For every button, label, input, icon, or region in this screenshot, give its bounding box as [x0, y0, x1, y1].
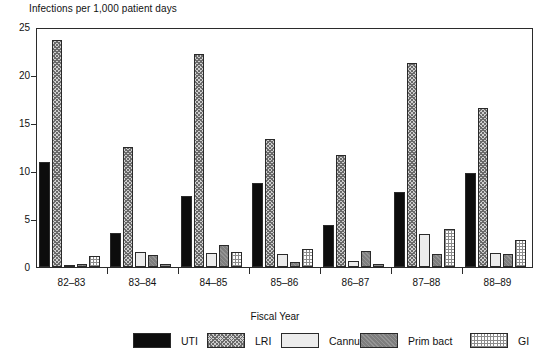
bar-gi-83-84: [160, 264, 171, 267]
legend-swatch-prim-bact-icon: [360, 333, 398, 348]
bar-prim-bact-82-83: [77, 264, 88, 267]
bar-uti-84-85: [181, 196, 192, 267]
bar-group: [37, 29, 108, 267]
legend-label: LRI: [255, 335, 271, 347]
x-tick-label: 83–84: [107, 277, 178, 288]
x-tick-mark: [391, 268, 392, 274]
y-tick-label: 15: [0, 119, 30, 129]
legend-label: GI: [518, 335, 529, 347]
bar-cannula-87-88: [419, 234, 430, 267]
x-tick-mark: [178, 268, 179, 274]
bar-group: [250, 29, 321, 267]
legend-swatch-lri-icon: [207, 333, 245, 348]
bar-prim-bact-88-89: [503, 254, 514, 267]
bar-lri-88-89: [478, 108, 489, 267]
bar-uti-86-87: [323, 225, 334, 267]
bar-uti-85-86: [252, 183, 263, 267]
bar-lri-82-83: [52, 40, 63, 267]
bar-gi-82-83: [89, 256, 100, 267]
bar-group: [179, 29, 250, 267]
legend-swatch-gi-icon: [470, 333, 508, 348]
legend-label: Prim bact: [408, 335, 452, 347]
bar-group: [108, 29, 179, 267]
bar-cannula-82-83: [64, 265, 75, 267]
x-tick-mark: [107, 268, 108, 274]
chart-title: Infections per 1,000 patient days: [29, 3, 177, 14]
bar-cannula-86-87: [348, 261, 359, 267]
bar-gi-85-86: [302, 249, 313, 267]
x-axis-title: Fiscal Year: [0, 311, 550, 322]
x-tick-mark: [462, 268, 463, 274]
bar-chart: Infections per 1,000 patient days 051015…: [0, 0, 550, 360]
bar-group: [321, 29, 392, 267]
bar-uti-82-83: [39, 162, 50, 267]
bar-prim-bact-85-86: [290, 262, 301, 267]
bar-gi-88-89: [515, 240, 526, 267]
bar-uti-87-88: [394, 192, 405, 267]
bar-gi-84-85: [231, 252, 242, 267]
x-tick-mark: [320, 268, 321, 274]
y-tick-label: 25: [0, 23, 30, 33]
bar-lri-85-86: [265, 139, 276, 267]
plot-area: [36, 28, 533, 268]
bar-cannula-85-86: [277, 254, 288, 267]
x-tick-label: 86–87: [320, 277, 391, 288]
bar-uti-83-84: [110, 233, 121, 267]
bar-lri-87-88: [407, 63, 418, 267]
chart-legend: UTILRICannulaPrim bactGI: [0, 333, 550, 357]
y-axis: 0510152025: [0, 0, 36, 360]
bar-prim-bact-87-88: [432, 254, 443, 267]
y-tick-label: 5: [0, 215, 30, 225]
x-tick-label: 88–89: [462, 277, 533, 288]
x-tick-label: 82–83: [36, 277, 107, 288]
x-tick-mark: [249, 268, 250, 274]
bar-prim-bact-86-87: [361, 251, 372, 267]
bar-cannula-83-84: [135, 252, 146, 267]
bar-lri-83-84: [123, 147, 134, 267]
bar-lri-86-87: [336, 155, 347, 267]
bar-group: [463, 29, 534, 267]
legend-swatch-uti-icon: [133, 333, 171, 348]
x-tick-label: 85–86: [249, 277, 320, 288]
bar-group: [392, 29, 463, 267]
legend-swatch-cannula-icon: [281, 333, 319, 348]
bar-gi-87-88: [444, 229, 455, 267]
x-tick-label: 87–88: [391, 277, 462, 288]
bar-cannula-84-85: [206, 253, 217, 267]
bar-gi-86-87: [373, 264, 384, 267]
bar-prim-bact-84-85: [219, 245, 230, 267]
y-tick-label: 10: [0, 167, 30, 177]
bar-prim-bact-83-84: [148, 255, 159, 267]
legend-label: UTI: [181, 335, 198, 347]
bar-lri-84-85: [194, 54, 205, 267]
bar-cannula-88-89: [490, 253, 501, 267]
bar-uti-88-89: [465, 173, 476, 267]
x-tick-label: 84–85: [178, 277, 249, 288]
y-tick-label: 20: [0, 71, 30, 81]
y-tick-label: 0: [0, 263, 30, 273]
